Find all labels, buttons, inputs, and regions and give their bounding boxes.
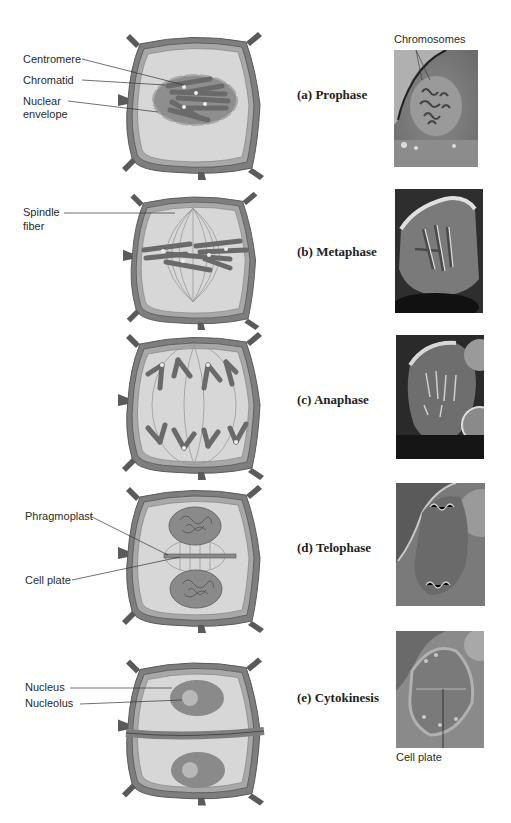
telophase-cell-diagram <box>0 480 280 635</box>
label-chromatid: Chromatid <box>23 74 74 87</box>
anaphase-micrograph <box>396 335 484 459</box>
metaphase-cell-diagram <box>0 180 280 330</box>
stage-metaphase: Spindle fiber (b) Metaphase <box>0 180 511 330</box>
label-fiber: fiber <box>23 220 44 233</box>
cytokinesis-micrograph <box>396 631 484 748</box>
label-nuclear: Nuclear <box>23 95 61 108</box>
prophase-cell-diagram <box>0 0 280 180</box>
label-centromere: Centromere <box>23 53 81 66</box>
phase-label-telophase: (d) Telophase <box>297 540 371 556</box>
label-chromosomes: Chromosomes <box>394 33 466 45</box>
label-nucleolus: Nucleolus <box>25 697 73 710</box>
label-phragmoplast: Phragmoplast <box>25 510 93 523</box>
metaphase-micrograph <box>395 189 483 313</box>
label-envelope: envelope <box>23 108 68 121</box>
label-spindle: Spindle <box>23 206 60 219</box>
phase-label-metaphase: (b) Metaphase <box>297 244 377 260</box>
label-cell-plate-photo: Cell plate <box>396 751 442 763</box>
label-nucleus: Nucleus <box>25 681 65 694</box>
prophase-micrograph <box>394 50 478 167</box>
stage-anaphase: (c) Anaphase <box>0 330 511 480</box>
telophase-micrograph <box>396 483 485 606</box>
stage-cytokinesis: Nucleus Nucleolus (e) Cytokinesis Cell p… <box>0 635 511 823</box>
cytokinesis-cell-diagram <box>0 635 280 823</box>
phase-label-cytokinesis: (e) Cytokinesis <box>297 690 379 706</box>
phase-label-prophase: (a) Prophase <box>297 87 367 103</box>
anaphase-cell-diagram <box>0 330 280 480</box>
stage-prophase: Centromere Chromatid Nuclear envelope (a… <box>0 0 511 180</box>
label-cell-plate-diagram: Cell plate <box>25 574 71 587</box>
phase-label-anaphase: (c) Anaphase <box>297 392 369 408</box>
stage-telophase: Phragmoplast Cell plate (d) Telophase <box>0 480 511 635</box>
